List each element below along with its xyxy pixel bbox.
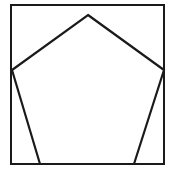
pentagon-in-square-figure	[0, 0, 173, 177]
pentagon-outline	[12, 15, 164, 164]
diagram-canvas	[0, 0, 173, 177]
